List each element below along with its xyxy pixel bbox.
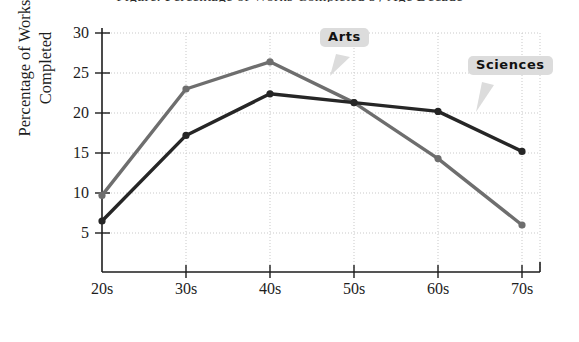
series-sciences [98, 90, 525, 224]
data-series-layer [98, 58, 525, 228]
data-point [98, 192, 105, 199]
data-point [266, 58, 273, 65]
chart-figure: Figure: Percentage of Works Completed by… [0, 0, 579, 342]
data-point [266, 90, 273, 97]
data-point [182, 132, 189, 139]
data-point [350, 99, 357, 106]
data-point [182, 85, 189, 92]
series-line-arts [102, 62, 522, 225]
series-arts [98, 58, 525, 228]
sciences-callout-tail [476, 82, 494, 112]
callout-arts: Arts [320, 28, 369, 47]
plot-area [0, 0, 579, 342]
callout-sciences: Sciences [468, 56, 553, 75]
data-point [518, 148, 525, 155]
data-point [98, 217, 105, 224]
data-point [434, 108, 441, 115]
data-point [434, 155, 441, 162]
data-point [518, 221, 525, 228]
